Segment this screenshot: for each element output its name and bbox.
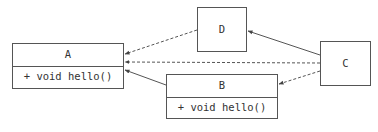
class-b[interactable]: B + void hello() xyxy=(166,74,278,119)
edge-b-to-a xyxy=(125,70,166,85)
edge-c-to-a xyxy=(125,62,320,63)
class-a-method: + void hello() xyxy=(13,70,123,82)
class-a-divider xyxy=(13,66,123,67)
edge-d-to-a xyxy=(125,30,197,54)
edge-c-to-b xyxy=(279,71,320,84)
class-b-name: B xyxy=(167,79,277,91)
class-b-divider xyxy=(167,97,277,98)
class-c-name: C xyxy=(321,57,370,69)
class-b-method: + void hello() xyxy=(167,101,277,113)
class-d[interactable]: D xyxy=(197,7,247,52)
class-d-name: D xyxy=(198,23,246,35)
class-a-name: A xyxy=(13,48,123,60)
class-c[interactable]: C xyxy=(320,41,371,86)
edge-c-to-d xyxy=(248,31,320,55)
class-a[interactable]: A + void hello() xyxy=(12,43,124,89)
